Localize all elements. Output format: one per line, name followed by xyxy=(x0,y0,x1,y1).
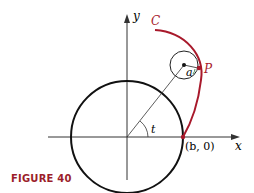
radius-a-label: a xyxy=(186,67,193,78)
curve-c xyxy=(155,30,202,137)
y-axis-label: y xyxy=(133,10,140,22)
point-p-label: P xyxy=(204,63,212,75)
figure-caption: FIGURE 40 xyxy=(11,173,72,184)
x-axis-label: x xyxy=(235,140,242,152)
angle-t-label: t xyxy=(151,124,155,135)
curve-label: C xyxy=(151,15,160,27)
point-p xyxy=(197,66,201,70)
figure-diagram xyxy=(0,0,254,193)
y-axis-arrow xyxy=(124,14,130,23)
angle-arc xyxy=(140,121,148,137)
point-b-label: (b, 0) xyxy=(185,141,215,152)
point-b xyxy=(181,135,185,139)
